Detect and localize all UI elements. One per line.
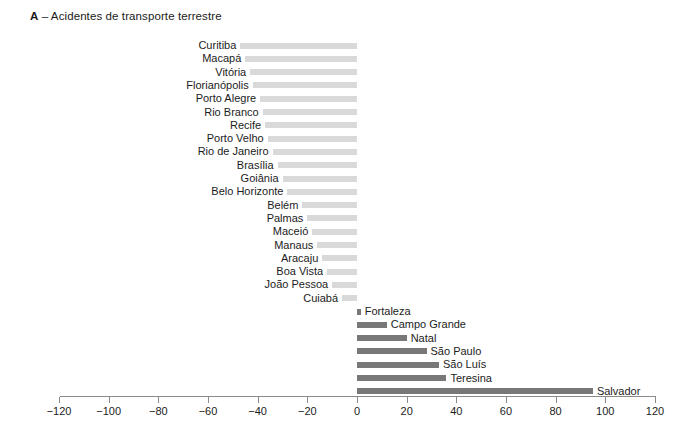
chart-row: Aracaju [0, 252, 700, 265]
chart-bar [268, 136, 357, 142]
chart-bar [357, 335, 407, 341]
bar-label: Porto Alegre [196, 92, 257, 105]
chart-bar [327, 269, 357, 275]
x-axis-tick [208, 397, 209, 403]
bar-label: Belém [267, 199, 298, 212]
bar-label: Recife [230, 119, 261, 132]
x-axis-tick [357, 397, 358, 403]
chart-row: Vitória [0, 66, 700, 79]
x-axis-tick [158, 397, 159, 403]
chart-bar [357, 322, 387, 328]
bar-label: Vitória [215, 66, 246, 79]
x-axis-tick [655, 397, 656, 403]
bar-label: Cuiabá [303, 292, 338, 305]
chart-row: Belo Horizonte [0, 185, 700, 198]
chart-bar [357, 388, 593, 394]
chart-bar [357, 348, 427, 354]
x-axis-tick-label: 120 [625, 405, 685, 417]
x-axis-line [60, 396, 656, 397]
chart-row: São Paulo [0, 345, 700, 358]
chart-bar [342, 295, 357, 301]
chart-row: Campo Grande [0, 318, 700, 331]
x-axis-tick [59, 397, 60, 403]
chart-bar [357, 375, 446, 381]
chart-bar [240, 43, 357, 49]
bar-label: Boa Vista [276, 265, 323, 278]
chart-bar [312, 229, 357, 235]
bar-label: Campo Grande [391, 318, 466, 331]
chart-bar [278, 162, 357, 168]
chart-bar [332, 282, 357, 288]
chart-row: Maceió [0, 225, 700, 238]
chart-row: Curitiba [0, 39, 700, 52]
chart-bar [273, 149, 357, 155]
chart-bar [322, 255, 357, 261]
chart-row: Palmas [0, 212, 700, 225]
plot-area: CuritibaMacapáVitóriaFlorianópolisPorto … [0, 0, 700, 432]
chart-row: Belém [0, 199, 700, 212]
x-axis-tick [556, 397, 557, 403]
chart-row: Porto Alegre [0, 92, 700, 105]
bar-label: Maceió [273, 225, 308, 238]
chart-bar [283, 176, 357, 182]
bar-label: Brasília [237, 159, 274, 172]
bar-label: Belo Horizonte [211, 185, 283, 198]
bar-label: Teresina [450, 372, 492, 385]
x-axis-tick [307, 397, 308, 403]
chart-row: Porto Velho [0, 132, 700, 145]
chart-row: Macapá [0, 52, 700, 65]
chart-row: Goiânia [0, 172, 700, 185]
chart-row: Boa Vista [0, 265, 700, 278]
bar-label: Goiânia [241, 172, 279, 185]
chart-bar [260, 96, 357, 102]
x-axis-tick [456, 397, 457, 403]
x-axis-tick [506, 397, 507, 403]
chart-row: Recife [0, 119, 700, 132]
chart-row: Fortaleza [0, 305, 700, 318]
x-axis-tick [109, 397, 110, 403]
bar-label: Aracaju [281, 252, 318, 265]
chart-bar [253, 82, 357, 88]
chart-bar [287, 189, 357, 195]
chart-row: Natal [0, 332, 700, 345]
chart-bar [317, 242, 357, 248]
bar-label: Curitiba [198, 39, 236, 52]
chart-row: João Pessoa [0, 278, 700, 291]
x-axis-tick [407, 397, 408, 403]
bar-label: Natal [411, 332, 437, 345]
chart-bar [307, 215, 357, 221]
x-axis-tick [605, 397, 606, 403]
chart-row: Rio Branco [0, 106, 700, 119]
chart-bar [250, 69, 357, 75]
bar-label: Fortaleza [365, 305, 411, 318]
chart-row: Teresina [0, 372, 700, 385]
bar-label: Rio de Janeiro [198, 145, 269, 158]
bar-label: João Pessoa [265, 278, 329, 291]
chart-row: São Luís [0, 358, 700, 371]
chart-bar [302, 202, 357, 208]
chart-row: Brasília [0, 159, 700, 172]
chart-row: Florianópolis [0, 79, 700, 92]
bar-label: São Paulo [431, 345, 482, 358]
bar-label: Rio Branco [204, 106, 258, 119]
chart-bar [263, 109, 357, 115]
bar-label: Porto Velho [207, 132, 264, 145]
chart-figure: A – Acidentes de transporte terrestre Cu… [0, 0, 700, 432]
chart-bar [357, 362, 439, 368]
bar-label: Florianópolis [186, 79, 248, 92]
bar-label: Palmas [267, 212, 304, 225]
x-axis-tick [258, 397, 259, 403]
chart-row: Rio de Janeiro [0, 145, 700, 158]
bar-label: Manaus [274, 239, 313, 252]
bar-label: Macapá [202, 52, 241, 65]
chart-bar [265, 122, 357, 128]
bar-label: São Luís [443, 358, 486, 371]
chart-bar [357, 309, 361, 315]
chart-row: Manaus [0, 239, 700, 252]
chart-bar [245, 56, 357, 62]
chart-row: Cuiabá [0, 292, 700, 305]
